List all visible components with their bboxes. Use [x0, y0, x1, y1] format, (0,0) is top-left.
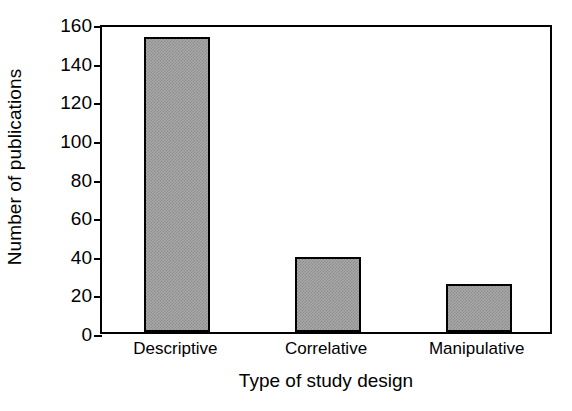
- plot-area: [100, 25, 552, 334]
- x-axis-title: Type of study design: [100, 370, 552, 392]
- y-axis-tick-labels: 020406080100120140160: [52, 25, 98, 334]
- bar-chart-figure: Number of publications 02040608010012014…: [0, 0, 572, 411]
- bar-correlative: [295, 257, 361, 332]
- y-axis-tick-mark: [94, 258, 102, 260]
- y-axis-tick-mark: [94, 65, 102, 67]
- y-axis-tick-mark: [94, 219, 102, 221]
- y-axis-tick-label: 0: [81, 325, 92, 344]
- bar-manipulative: [446, 284, 512, 332]
- x-axis-tick-label: Manipulative: [429, 338, 524, 360]
- y-axis-tick-label: 160: [60, 16, 92, 35]
- x-axis-tick-labels: DescriptiveCorrelativeManipulative: [100, 338, 552, 364]
- y-axis-tick-label: 120: [60, 93, 92, 112]
- x-axis-tick-label: Correlative: [285, 338, 367, 360]
- y-axis-tick-mark: [94, 26, 102, 28]
- y-axis-title: Number of publications: [0, 0, 30, 334]
- y-axis-tick-mark: [94, 181, 102, 183]
- y-axis-tick-mark: [94, 103, 102, 105]
- y-axis-tick-label: 140: [60, 54, 92, 73]
- y-axis-tick-label: 20: [71, 286, 92, 305]
- y-axis-tick-mark: [94, 142, 102, 144]
- bar-descriptive: [144, 37, 210, 332]
- x-axis-tick-label: Descriptive: [133, 338, 217, 360]
- y-axis-tick-label: 60: [71, 209, 92, 228]
- y-axis-tick-label: 100: [60, 131, 92, 150]
- y-axis-tick-label: 80: [71, 170, 92, 189]
- y-axis-tick-label: 40: [71, 247, 92, 266]
- y-axis-tick-mark: [94, 296, 102, 298]
- y-axis-tick-mark: [94, 335, 102, 337]
